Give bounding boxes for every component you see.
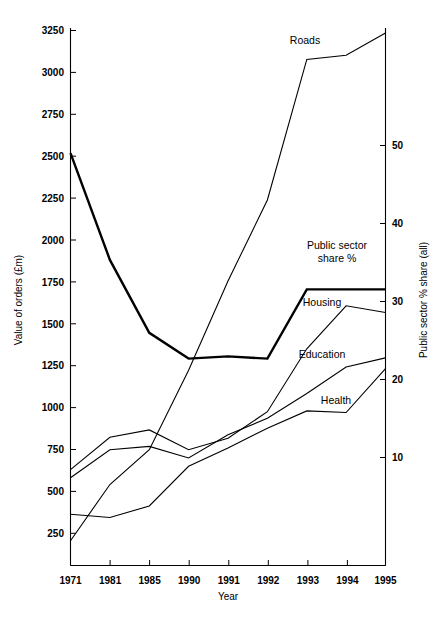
line-chart: 3250 3000 2750 2500 2250 2000 1750 1500 … [0, 0, 439, 625]
left-tick-label: 1000 [42, 402, 65, 413]
left-tick-label: 3000 [42, 67, 65, 78]
right-tick-label: 20 [392, 374, 404, 385]
series-label-roads: Roads [290, 34, 320, 46]
x-tick-label: 1993 [297, 575, 320, 586]
left-tick-label: 750 [47, 444, 64, 455]
series-line-health [71, 369, 386, 518]
series-line-housing [71, 306, 386, 470]
bottom-axis-tick-labels: 1971 1981 1985 1990 1991 1992 1993 1994 … [59, 575, 397, 586]
y-axis-title: Value of orders (£m) [13, 255, 24, 345]
x-tick-label: 1994 [336, 575, 359, 586]
left-tick-label: 1750 [42, 277, 65, 288]
left-tick-label: 250 [47, 528, 64, 539]
chart-container: 3250 3000 2750 2500 2250 2000 1750 1500 … [0, 0, 439, 625]
left-axis-ticks [71, 31, 77, 534]
left-tick-label: 1250 [42, 360, 65, 371]
x-axis-title: Year [218, 591, 239, 602]
left-axis-tick-labels: 3250 3000 2750 2500 2250 2000 1750 1500 … [42, 25, 65, 539]
left-tick-label: 1500 [42, 319, 65, 330]
right-tick-label: 30 [392, 296, 404, 307]
right-axis-tick-labels: 50 40 30 20 10 [392, 140, 404, 463]
left-tick-label: 3250 [42, 25, 65, 36]
x-tick-label: 1991 [218, 575, 241, 586]
x-tick-label: 1990 [178, 575, 201, 586]
right-tick-label: 50 [392, 140, 404, 151]
x-tick-label: 1971 [59, 575, 82, 586]
series-label-public-sector-share-line2: share % [318, 252, 357, 264]
series-line-education [71, 358, 386, 478]
series-line-roads [71, 33, 386, 541]
left-tick-label: 500 [47, 486, 64, 497]
left-tick-label: 2000 [42, 235, 65, 246]
series-label-public-sector-share-line1: Public sector [307, 239, 368, 251]
bottom-axis-ticks [71, 560, 386, 566]
right-tick-label: 10 [392, 452, 404, 463]
x-tick-label: 1995 [374, 575, 397, 586]
right-tick-label: 40 [392, 218, 404, 229]
left-tick-label: 2500 [42, 151, 65, 162]
left-tick-label: 2750 [42, 109, 65, 120]
x-tick-label: 1992 [257, 575, 280, 586]
series-label-education: Education [299, 348, 346, 360]
right-axis-ticks [380, 146, 386, 458]
series-label-health: Health [321, 394, 352, 406]
series-label-housing: Housing [303, 296, 342, 308]
x-tick-label: 1981 [99, 575, 122, 586]
x-tick-label: 1985 [138, 575, 161, 586]
y2-axis-title: Public sector % share (all) [418, 242, 429, 358]
left-tick-label: 2250 [42, 193, 65, 204]
